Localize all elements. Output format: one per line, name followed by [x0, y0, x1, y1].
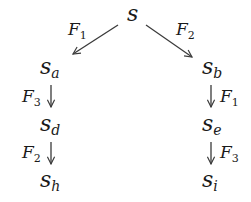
node-s-a: sa [40, 54, 60, 81]
node-s-h: sh [40, 167, 60, 194]
state-tree-diagram: s F1 F2 sa F3 sd F2 sh sb F1 se F3 si [0, 0, 251, 202]
edge-label-f3-right: F3 [219, 142, 239, 165]
node-s-b: sb [202, 54, 222, 81]
edge-label-f3-left: F3 [21, 86, 41, 109]
node-s-i: si [202, 167, 218, 194]
node-root: s [127, 1, 138, 26]
node-s-e: se [202, 111, 222, 138]
edge-label-f2: F2 [175, 19, 195, 42]
edge-label-f2-left: F2 [21, 142, 41, 165]
edge-label-f1: F1 [67, 19, 87, 42]
node-s-d: sd [40, 111, 60, 138]
edge-label-f1-right: F1 [219, 86, 239, 109]
